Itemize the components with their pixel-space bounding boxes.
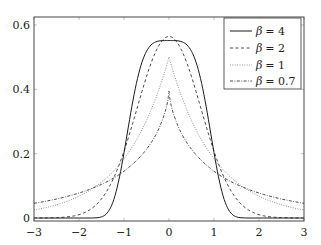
legend-label: β= 1 <box>255 59 285 72</box>
x-tick-label: 2 <box>256 226 263 239</box>
y-tick-label: 0 <box>23 212 30 225</box>
curve-dashdot <box>34 91 304 203</box>
legend-label: β= 4 <box>255 25 285 38</box>
legend: β= 4 β= 2 β= 1 β= 0.7 <box>224 18 301 89</box>
y-tick-label: 0.6 <box>13 19 31 32</box>
x-tick-label: −2 <box>71 226 87 239</box>
x-tick-label: 1 <box>211 226 218 239</box>
x-tick-label: 0 <box>166 226 173 239</box>
y-tick-label: 0.4 <box>13 83 31 96</box>
legend-label: β= 0.7 <box>255 75 296 88</box>
x-tick-label: −3 <box>26 226 42 239</box>
legend-label: β= 2 <box>255 42 285 55</box>
x-tick-label: −1 <box>116 226 132 239</box>
chart: −3−2−1012300.20.40.6 β= 4 β= 2 β= 1 β= 0… <box>0 0 321 245</box>
y-tick-label: 0.2 <box>13 148 31 161</box>
x-tick-label: 3 <box>301 226 308 239</box>
